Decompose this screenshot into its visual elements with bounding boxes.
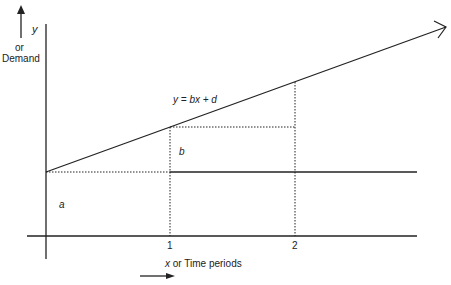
x-axis-name-label: or Time periods (170, 258, 242, 269)
y-axis-var-label: y (32, 24, 38, 35)
b-label: b (179, 146, 185, 157)
y-axis-name-label: Demand (2, 53, 40, 64)
x-axis-label: x or Time periods (165, 258, 242, 269)
y-direction-arrow-icon (17, 5, 25, 38)
diagram-canvas (0, 0, 451, 285)
y-axis-or-label: or (15, 42, 24, 53)
trend-line (46, 27, 446, 172)
tick-1-label: 1 (167, 240, 173, 251)
tick-2-label: 2 (292, 240, 298, 251)
x-direction-arrow-icon (140, 273, 175, 279)
equation-label: y = bx + d (173, 94, 217, 105)
a-label: a (59, 199, 65, 210)
